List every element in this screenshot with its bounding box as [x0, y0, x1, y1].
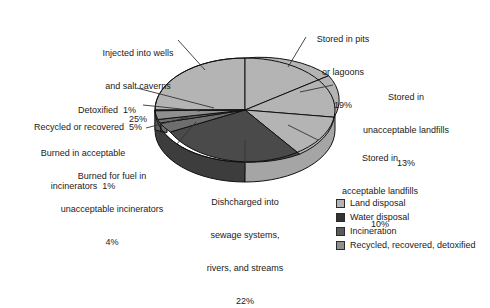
- legend-item-incineration: Incineration: [336, 224, 476, 238]
- callout-line: Stored in: [320, 153, 440, 164]
- legend-label: Land disposal: [350, 198, 406, 208]
- callout-line: Injected into wells: [78, 48, 198, 59]
- legend-item-land-disposal: Land disposal: [336, 196, 476, 210]
- callout-line: rivers, and streams: [189, 263, 301, 274]
- callout-value: incinerators 1%: [22, 181, 144, 192]
- callout-discharged-sewage: Dishcharged into sewage systems, rivers,…: [189, 175, 301, 308]
- callout-line: Detoxified 1%: [22, 105, 136, 116]
- legend-label: Water disposal: [350, 212, 409, 222]
- chart-legend: Land disposal Water disposal Incineratio…: [336, 196, 476, 252]
- callout-line: Stored in: [341, 92, 471, 103]
- callout-line: Stored in pits: [300, 34, 386, 45]
- callout-value: 4%: [48, 237, 176, 248]
- legend-label: Incineration: [350, 226, 397, 236]
- legend-swatch-incineration: [336, 227, 345, 236]
- legend-item-recycled: Recycled, recovered, detoxified: [336, 238, 476, 252]
- legend-item-water-disposal: Water disposal: [336, 210, 476, 224]
- legend-swatch-recycled: [336, 241, 345, 250]
- legend-swatch-land-disposal: [336, 199, 345, 208]
- callout-line: Dishcharged into: [189, 197, 301, 208]
- callout-value: 22%: [189, 296, 301, 307]
- legend-label: Recycled, recovered, detoxified: [350, 240, 476, 250]
- callout-line: sewage systems,: [189, 230, 301, 241]
- legend-swatch-water-disposal: [336, 213, 345, 222]
- callout-detoxified: Detoxified 1%: [22, 83, 136, 138]
